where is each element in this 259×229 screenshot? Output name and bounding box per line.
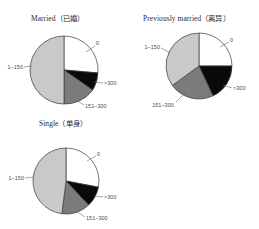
slice-married-1-150 [30,36,64,104]
leader-single-1-150 [25,177,34,178]
panel-previously-married: Previously married（离异） 0 >300 151–300 [130,0,259,115]
panel-married: Married（已婚） 0 >300 151–300 1 [0,0,130,115]
label-single-gt300: >300 [104,194,117,200]
label-single-1-150: 1–150 [9,175,25,181]
pie-single: 0 >300 151–300 1–150 [0,131,130,229]
pie-svg-previously-married: 0 >300 151–300 1–150 [130,26,259,115]
label-prev-gt300: >300 [233,85,246,91]
slice-single-1-150 [33,148,66,214]
label-married-1-150: 1–150 [8,64,24,70]
panel-single: Single（单身） 0 >300 151–300 1–150 [0,112,130,229]
pie-married: 0 >300 151–300 1–150 [0,26,130,115]
leader-prev-1-150 [161,48,170,53]
slice-prev-0 [199,33,232,66]
leader-single-151-300 [76,211,85,217]
leader-prev-151-300 [176,93,185,102]
label-married-gt300: >300 [104,80,117,86]
label-prev-151-300: 151–300 [152,102,174,108]
label-single-0: 0 [97,151,100,157]
label-single-151-300: 151–300 [86,215,108,221]
slice-single-0 [66,148,99,187]
slice-married-0 [64,36,98,73]
pie-svg-married: 0 >300 151–300 1–150 [0,26,130,115]
label-prev-0: 0 [230,37,233,43]
pie-svg-single: 0 >300 151–300 1–150 [0,131,130,229]
label-married-151-300: 151–300 [85,103,107,109]
panel-title-married: Married（已婚） [31,12,84,23]
label-prev-1-150: 1–150 [145,44,161,50]
pie-previously-married: 0 >300 151–300 1–150 [130,26,259,115]
label-married-0: 0 [96,40,99,46]
pie-chart-figure: Married（已婚） 0 >300 151–300 1 [0,0,259,229]
panel-title-previously-married: Previously married（离异） [143,12,230,23]
panel-title-single: Single（单身） [39,117,87,128]
